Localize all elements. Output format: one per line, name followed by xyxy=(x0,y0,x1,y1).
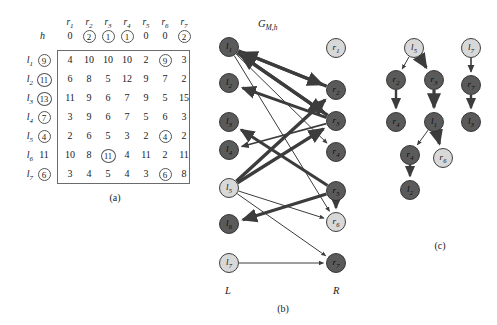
graph-node-l3[interactable] xyxy=(462,113,481,132)
graph-node-l1[interactable] xyxy=(425,113,444,132)
graph-edge xyxy=(419,56,426,67)
graph-node-r7[interactable] xyxy=(462,76,481,95)
graph-node-r4[interactable] xyxy=(401,146,420,165)
graph-node-r6[interactable] xyxy=(434,149,453,168)
figure-root: r1r2r3r4r5r6r7 h0211002 l1l2l3l4l5l6l7 9… xyxy=(0,0,497,325)
graph-node-l7[interactable] xyxy=(462,39,481,58)
graph-node-l5[interactable] xyxy=(405,39,424,58)
graph-node-r3[interactable] xyxy=(425,71,444,90)
graph-edge xyxy=(417,130,428,145)
graph-edge xyxy=(436,132,439,144)
graph-node-r4[interactable] xyxy=(387,113,406,132)
graph-node-r2[interactable] xyxy=(387,71,406,90)
graph-edge xyxy=(402,57,409,69)
graph-c-canvas xyxy=(0,0,497,325)
graph-node-l2[interactable] xyxy=(401,181,420,200)
panel-c-caption: (c) xyxy=(425,240,455,251)
